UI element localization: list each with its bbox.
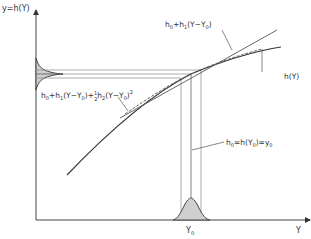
delta-method-diagram: y=h(Y) Y Y0 h0+h1(Y−Y0) h(Y) h0+h1(Y−Y0)… xyxy=(0,0,311,239)
y0-tick-label: Y0 xyxy=(185,226,194,236)
leader-tangent xyxy=(222,30,232,50)
x-distribution-bell xyxy=(173,198,210,220)
curve-label: h(Y) xyxy=(284,72,299,81)
equality-label: h0=h(Y0)=y0 xyxy=(226,138,273,148)
curve-hY xyxy=(67,47,281,175)
x-axis-label: Y xyxy=(295,226,301,235)
quadratic-formula-label: h0+h1(Y−Y0)+12h2(Y−Y0)2 xyxy=(41,89,133,102)
y-axis-label: y=h(Y) xyxy=(2,4,30,13)
leader-eq xyxy=(192,142,224,150)
tangent-formula-label: h0+h1(Y−Y0) xyxy=(165,20,212,30)
quadratic-approx xyxy=(125,49,262,114)
